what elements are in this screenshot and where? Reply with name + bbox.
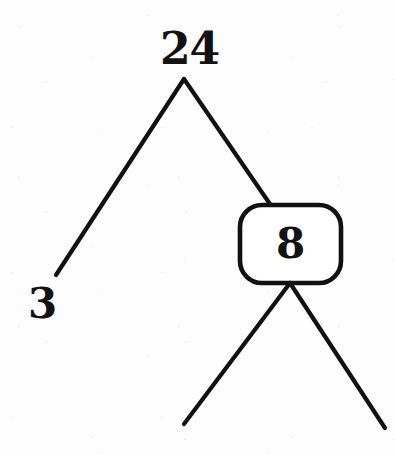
- node-label-left-child: 3: [28, 283, 57, 325]
- number-bond-diagram: 24 3 8: [0, 0, 395, 455]
- edge-root-to-right-child: [184, 79, 272, 207]
- edge-right-child-to-grandchild-right: [290, 283, 385, 428]
- node-label-boxed-right-child: 8: [240, 205, 341, 283]
- node-label-root: 24: [160, 27, 219, 71]
- edge-right-child-to-grandchild-left: [184, 283, 290, 424]
- edge-root-to-left-child: [56, 79, 184, 275]
